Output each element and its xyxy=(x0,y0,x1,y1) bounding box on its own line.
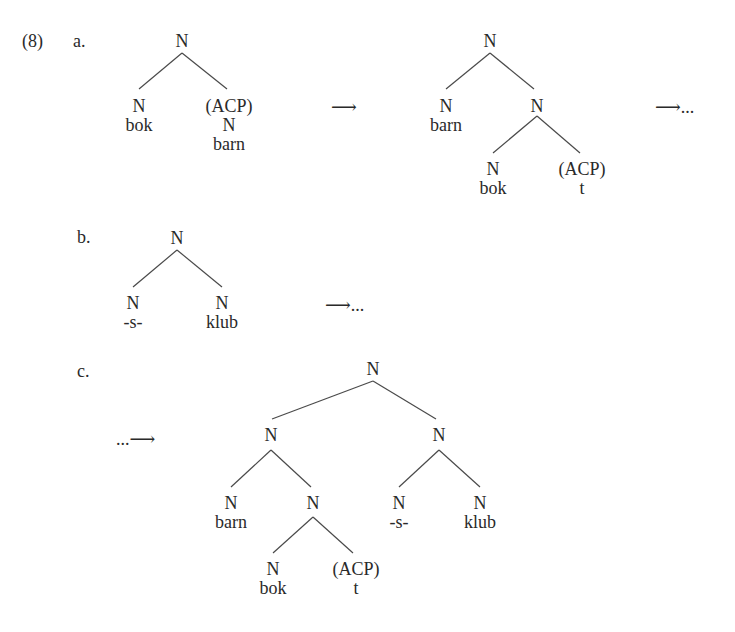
node-word: t xyxy=(558,179,605,198)
node-category: N xyxy=(205,116,252,135)
node-word: bok xyxy=(260,579,287,598)
tree-node: N barn xyxy=(430,97,462,135)
tree-node-root: N xyxy=(484,32,497,51)
tree-node: (ACP) t xyxy=(332,560,379,598)
node-word: klub xyxy=(206,313,238,332)
node-word: -s- xyxy=(390,513,409,532)
tree-node: (ACP) N barn xyxy=(205,97,252,154)
tree-node-root: N xyxy=(367,360,380,379)
node-word: barn xyxy=(205,135,252,154)
tree-node-root: N xyxy=(171,229,184,248)
node-category: N xyxy=(124,294,143,313)
node-word: t xyxy=(332,579,379,598)
node-word: klub xyxy=(464,513,496,532)
tree-branches xyxy=(0,0,735,632)
example-number: (8) xyxy=(22,32,43,50)
tree-node: N bok xyxy=(126,97,153,135)
node-word: barn xyxy=(215,513,247,532)
tree-node: N klub xyxy=(464,494,496,532)
derivation-arrow: ⟶... xyxy=(655,96,694,118)
derivation-arrow: ⟶... xyxy=(325,294,364,316)
node-category: N xyxy=(260,560,287,579)
subexample-label-a: a. xyxy=(73,32,86,50)
node-word: -s- xyxy=(124,313,143,332)
tree-node: N -s- xyxy=(124,294,143,332)
node-category: N xyxy=(480,160,507,179)
node-category: N xyxy=(126,97,153,116)
subexample-label-c: c. xyxy=(77,362,90,380)
tree-node: N klub xyxy=(206,294,238,332)
node-category: N xyxy=(464,494,496,513)
node-category: (ACP) xyxy=(558,160,605,179)
tree-node: N -s- xyxy=(390,494,409,532)
tree-node: N xyxy=(307,494,320,513)
tree-node: N xyxy=(433,426,446,445)
subexample-label-b: b. xyxy=(77,228,91,246)
tree-node: N barn xyxy=(215,494,247,532)
derivation-arrow: ⟶ xyxy=(331,96,357,118)
tree-node: (ACP) t xyxy=(558,160,605,198)
tree-node: N xyxy=(531,97,544,116)
node-word: barn xyxy=(430,116,462,135)
tree-node: N bok xyxy=(260,560,287,598)
node-category: N xyxy=(206,294,238,313)
node-category: N xyxy=(390,494,409,513)
tree-node: N xyxy=(265,426,278,445)
derivation-arrow: ...⟶ xyxy=(116,428,155,450)
node-word: bok xyxy=(126,116,153,135)
node-category: N xyxy=(215,494,247,513)
node-category: (ACP) xyxy=(332,560,379,579)
node-category: (ACP) xyxy=(205,97,252,116)
tree-node-root: N xyxy=(176,32,189,51)
node-category: N xyxy=(430,97,462,116)
node-word: bok xyxy=(480,179,507,198)
tree-node: N bok xyxy=(480,160,507,198)
